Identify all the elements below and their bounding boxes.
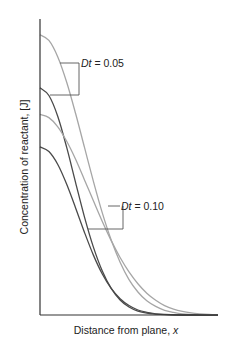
series-line-4 [40,147,218,315]
x-axis-label: Distance from plane, x [74,324,179,336]
annotation-dt-010-leader [88,206,123,229]
x-axis-label-text: Distance from plane, [74,324,173,336]
annotation-dt-005: Dt = 0.05 [81,57,124,69]
x-axis-label-var: x [172,324,179,336]
series-line-3 [40,114,218,314]
annotation-dt-005-leader [50,63,79,95]
concentration-chart: Dt = 0.05 Dt = 0.10 Concentration of rea… [0,0,232,347]
annotation-dt-010-value: = 0.10 [132,200,165,212]
annotation-dt-010: Dt = 0.10 [121,200,164,212]
curves-group [40,35,218,315]
y-axis-label: Concentration of reactant, [J] [18,100,30,235]
annotation-dt-005-value: = 0.05 [92,57,125,69]
